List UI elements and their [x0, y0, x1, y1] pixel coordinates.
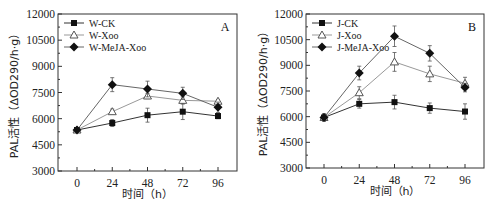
panel-label: A [221, 20, 230, 34]
legend-item: J-MeJA-Xoo [312, 42, 389, 53]
y-tick-label: 12000 [26, 8, 55, 20]
x-tick-label: 72 [424, 174, 436, 186]
legend-label: W-MeJA-Xoo [89, 42, 146, 53]
legend-label: J-CK [337, 18, 359, 29]
x-axis-label: 时间（h） [370, 185, 421, 198]
y-tick-label: 9000 [280, 59, 303, 71]
y-tick-label: 7500 [280, 85, 303, 97]
x-axis-label: 时间（h） [122, 188, 173, 201]
y-tick-label: 12000 [274, 8, 303, 20]
y-tick-label: 4500 [32, 139, 55, 151]
y-tick-label: 10500 [274, 34, 303, 46]
chart-panel-b: 300045006000750090001050012000024487296时… [256, 8, 484, 198]
chart-figure: 300045006000750090001050012000024487296时… [0, 0, 489, 208]
legend-item: W-Xoo [64, 30, 118, 41]
series-w-ck [74, 104, 221, 133]
legend-label: W-Xoo [89, 30, 118, 41]
legend-item: J-Xoo [312, 30, 361, 41]
legend-item: W-MeJA-Xoo [64, 42, 146, 53]
y-tick-label: 10500 [26, 34, 55, 46]
panel-label: B [468, 20, 476, 34]
y-tick-label: 6000 [32, 113, 55, 125]
y-tick-label: 4500 [280, 136, 303, 148]
legend-item: J-CK [312, 18, 359, 29]
x-tick-label: 96 [459, 174, 471, 186]
x-tick-label: 0 [74, 177, 80, 189]
x-tick-label: 24 [354, 174, 366, 186]
y-tick-label: 7500 [32, 87, 55, 99]
legend-label: J-Xoo [337, 30, 361, 41]
legend-label: J-MeJA-Xoo [337, 42, 389, 53]
y-axis-label: PAL活性（ΔOD290/h·g） [7, 28, 21, 158]
y-tick-label: 9000 [32, 60, 55, 72]
y-tick-label: 3000 [280, 162, 303, 174]
legend-label: W-CK [89, 18, 116, 29]
y-axis-label: PAL活性（ΔOD290/h·g） [256, 26, 270, 156]
x-tick-label: 96 [212, 177, 224, 189]
legend-item: W-CK [64, 18, 116, 29]
x-tick-label: 72 [177, 177, 189, 189]
series-j-ck [321, 95, 468, 121]
x-tick-label: 0 [321, 174, 327, 186]
chart-panel-a: 300045006000750090001050012000024487296时… [7, 8, 237, 201]
x-tick-label: 24 [107, 177, 119, 189]
y-tick-label: 6000 [280, 111, 303, 123]
y-tick-label: 3000 [32, 165, 55, 177]
